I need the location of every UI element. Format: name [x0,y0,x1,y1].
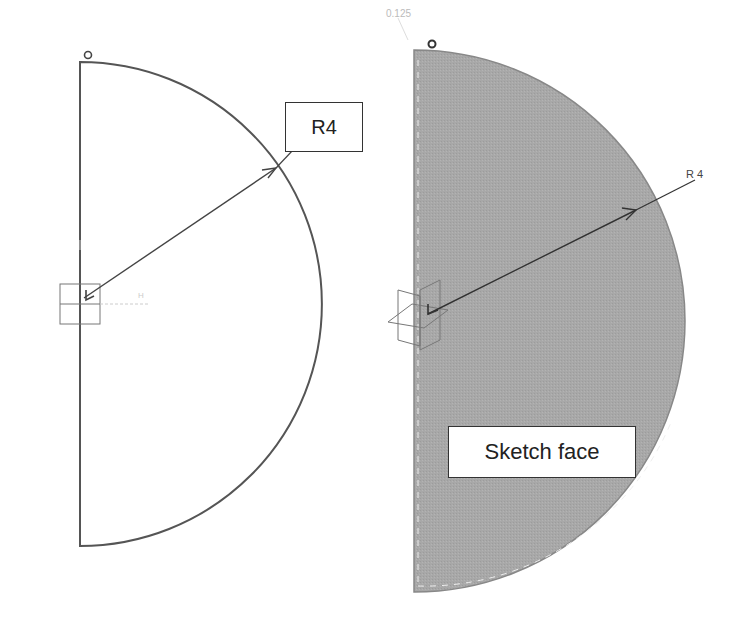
endpoint-marker-icon [85,52,92,59]
svg-text:H: H [138,291,144,300]
faint-dimension-label: 0.125 [386,8,411,19]
origin-axis-icon: H [60,240,148,324]
left-semicircle-sketch: H [60,52,322,547]
radius-dimension-text: R 4 [686,168,703,180]
sketch-face-callout-box: Sketch face [448,426,636,478]
radius-callout-text: R4 [311,116,337,139]
sketch-face-callout-text: Sketch face [485,439,600,465]
diagram-canvas: H [0,0,737,636]
right-semicircle-face [388,18,695,592]
radius-callout-box: R4 [285,102,363,152]
radius-leader-line [84,168,276,298]
endpoint-marker-icon [429,41,436,48]
